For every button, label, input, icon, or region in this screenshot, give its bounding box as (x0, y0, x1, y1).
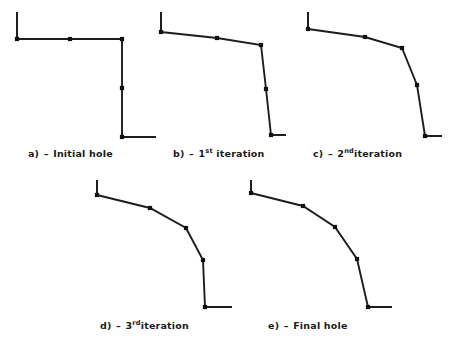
caption-c-dash: – (327, 148, 334, 159)
caption-panel-e: e) – Final hole (268, 320, 348, 331)
caption-c-label: c) (313, 148, 323, 159)
caption-panel-d: d) – 3rditeration (100, 320, 189, 331)
caption-a-label: a) (28, 148, 39, 159)
caption-b-dash: – (188, 148, 195, 159)
panel-c-profile-line (308, 29, 425, 136)
panel-c-node-4 (415, 83, 419, 87)
panel-d-profile-line (97, 195, 205, 307)
panel-b-node-4 (264, 87, 268, 91)
caption-b-label: b) (173, 148, 185, 159)
panel-a-node-2 (68, 37, 72, 41)
panel-e-geometry (249, 180, 392, 309)
panel-a-node-5 (120, 135, 124, 139)
panel-e-node-4 (355, 257, 359, 261)
panel-a-geometry (15, 12, 156, 139)
panel-d-node-1 (95, 193, 99, 197)
panel-e-node-1 (249, 191, 253, 195)
panel-c-node-2 (363, 35, 367, 39)
caption-c-ordinal-suffix: nd (344, 147, 354, 155)
caption-e-label: e) (268, 320, 279, 331)
panel-b-node-3 (259, 43, 263, 47)
panel-d-geometry (95, 180, 232, 309)
panel-b-node-5 (269, 133, 273, 137)
caption-a-text: Initial hole (53, 148, 113, 159)
panel-b-profile-line (161, 32, 271, 135)
caption-panel-b: b) – 1st iteration (173, 148, 265, 159)
panel-b-node-1 (159, 30, 163, 34)
panel-c-node-1 (306, 27, 310, 31)
panel-e-profile-line (251, 193, 368, 307)
caption-c-tail: iteration (354, 148, 402, 159)
panel-a-node-4 (120, 86, 124, 90)
caption-panel-c: c) – 2nditeration (313, 148, 402, 159)
panel-e-node-5 (366, 305, 370, 309)
caption-b-ordinal-suffix: st (205, 147, 212, 155)
panel-d-node-2 (148, 206, 152, 210)
panel-b-geometry (159, 12, 286, 137)
panel-c-node-5 (423, 134, 427, 138)
caption-a-dash: – (43, 148, 50, 159)
panel-a-node-1 (15, 37, 19, 41)
panel-d-node-4 (201, 258, 205, 262)
panel-c-geometry (306, 12, 442, 138)
caption-b-tail: iteration (213, 148, 265, 159)
caption-d-ordinal-suffix: rd (132, 319, 140, 327)
caption-e-text: Final hole (293, 320, 347, 331)
panel-a-node-3 (120, 37, 124, 41)
caption-d-label: d) (100, 320, 112, 331)
panel-e-node-2 (301, 204, 305, 208)
svg-panel-group (15, 12, 442, 309)
panel-d-node-5 (203, 305, 207, 309)
panel-b-node-2 (215, 36, 219, 40)
caption-panel-a: a) – Initial hole (28, 148, 113, 159)
hole-profile-svg (0, 0, 467, 355)
panel-a-profile-line (17, 39, 122, 137)
caption-d-dash: – (115, 320, 122, 331)
caption-e-dash: – (283, 320, 290, 331)
panel-c-node-3 (400, 46, 404, 50)
panel-e-node-3 (333, 225, 337, 229)
caption-d-tail: iteration (141, 320, 189, 331)
panel-d-node-3 (184, 226, 188, 230)
